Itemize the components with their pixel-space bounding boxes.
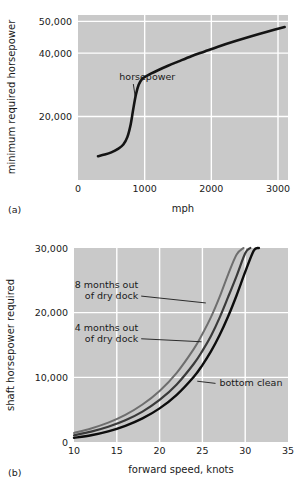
x-tick-label-1: 15 — [111, 445, 123, 456]
x-tick-label-1: 1000 — [133, 183, 157, 194]
y-tick-label-3: 30,000 — [35, 243, 68, 254]
panel-a-tag: (a) — [8, 204, 21, 215]
panel-a-plot-background — [78, 15, 288, 180]
panel-b-y-tick-labels: 010,00020,00030,000 — [35, 243, 68, 448]
panel-b-y-axis-title: shaft horsepower required — [5, 279, 16, 411]
x-tick-label-3: 3000 — [266, 183, 290, 194]
panel-b-x-axis-title: forward speed, knots — [128, 464, 233, 475]
y-tick-label-0: 20,000 — [39, 111, 72, 122]
y-tick-label-0: 0 — [62, 437, 68, 448]
x-tick-label-2: 20 — [154, 445, 166, 456]
y-tick-label-2: 50,000 — [39, 16, 72, 27]
panel-b-x-tick-labels: 101520253035 — [68, 445, 294, 456]
x-tick-label-2: 2000 — [199, 183, 223, 194]
panel-a-y-axis-title: minimum required horsepower — [6, 19, 17, 174]
x-tick-label-0: 10 — [68, 445, 80, 456]
x-tick-label-4: 30 — [239, 445, 251, 456]
y-tick-label-2: 20,000 — [35, 307, 68, 318]
panel-a-chart: horsepower 0100020003000 20,00040,00050,… — [0, 0, 300, 228]
x-tick-label-3: 25 — [196, 445, 208, 456]
panel-a-minimum-required-horsepower: horsepower 0100020003000 20,00040,00050,… — [0, 0, 300, 228]
panel-b-shaft-horsepower-required: 8 months outof dry dock4 months outof dr… — [0, 240, 300, 491]
y-tick-label-1: 40,000 — [39, 48, 72, 59]
annotation-label-2: bottom clean — [220, 377, 283, 388]
panel-b-tag: (b) — [8, 467, 21, 478]
x-tick-label-0: 0 — [75, 183, 81, 194]
annotation-label-1: 4 months outof dry dock — [75, 322, 139, 344]
annotation-label-0: horsepower — [119, 71, 175, 82]
panel-a-x-tick-labels: 0100020003000 — [75, 183, 290, 194]
panel-a-y-tick-labels: 20,00040,00050,000 — [39, 16, 72, 122]
x-tick-label-5: 35 — [282, 445, 294, 456]
annotation-label-0: 8 months outof dry dock — [75, 279, 139, 301]
y-tick-label-1: 10,000 — [35, 372, 68, 383]
panel-b-chart: 8 months outof dry dock4 months outof dr… — [0, 240, 300, 491]
panel-b-plot-background — [74, 248, 288, 442]
panel-a-x-axis-title: mph — [172, 203, 194, 214]
